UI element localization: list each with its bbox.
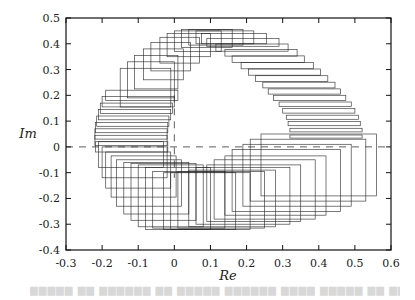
enclosure-rect bbox=[207, 165, 301, 222]
y-tick-label: -0.1 bbox=[39, 167, 60, 180]
enclosure-rect bbox=[256, 76, 328, 82]
y-tick-label: 0.3 bbox=[43, 64, 61, 77]
y-tick-label: 0 bbox=[53, 141, 60, 154]
y-tick-label: -0.4 bbox=[39, 244, 60, 257]
enclosure-rect bbox=[120, 68, 171, 107]
x-tick-label: 0.1 bbox=[202, 257, 220, 270]
y-tick-label: 0.5 bbox=[43, 12, 61, 25]
enclosure-rect bbox=[268, 89, 340, 94]
y-tick-label: 0.2 bbox=[43, 89, 61, 102]
enclosure-rect bbox=[135, 55, 178, 89]
enclosure-rect bbox=[290, 135, 362, 138]
zero-reference-lines bbox=[66, 95, 391, 177]
x-axis-label: Re bbox=[218, 268, 237, 283]
x-tick-label: 0.3 bbox=[274, 257, 292, 270]
enclosure-rect bbox=[279, 102, 351, 107]
enclosure-rect bbox=[97, 116, 169, 126]
enclosure-rect bbox=[100, 103, 172, 113]
enclosure-rect bbox=[95, 135, 167, 145]
enclosure-rect bbox=[241, 63, 313, 69]
enclosure-rect bbox=[225, 49, 297, 56]
rectangle-enclosures bbox=[95, 30, 377, 230]
x-tick-label: 0.6 bbox=[382, 257, 400, 270]
enclosure-rect bbox=[248, 69, 320, 75]
y-tick-label: -0.2 bbox=[39, 192, 60, 205]
figure-caption-fragment: ▆▆▆▆▆ ▆▆ ▆▆▆▆▆▆ ▆▆ ▆▆▆▆▆ ▆▆▆▆▆▆ ▆▆▆▆ ▆▆▆… bbox=[30, 284, 400, 296]
enclosure-rect bbox=[106, 90, 178, 100]
x-tick-label: 0.2 bbox=[238, 257, 256, 270]
enclosure-rect bbox=[99, 110, 171, 120]
enclosure-rect bbox=[286, 115, 358, 119]
enclosure-rect bbox=[243, 144, 351, 206]
enclosure-rect bbox=[144, 49, 184, 80]
enclosure-rect bbox=[232, 150, 340, 212]
enclosure-rect bbox=[288, 122, 360, 126]
enclosure-rect bbox=[232, 56, 304, 63]
enclosure-rect bbox=[95, 129, 167, 139]
enclosure-rect bbox=[274, 95, 346, 100]
y-tick-label: 0.4 bbox=[43, 38, 61, 51]
y-axis-label: Im bbox=[18, 126, 36, 141]
enclosure-rect bbox=[196, 31, 254, 44]
y-axis-ticks: -0.4-0.3-0.2-0.100.10.20.30.40.5 bbox=[39, 12, 391, 257]
x-tick-label: -0.3 bbox=[55, 257, 76, 270]
x-tick-label: 0.4 bbox=[310, 257, 328, 270]
x-tick-label: -0.2 bbox=[92, 257, 113, 270]
chart: -0.3-0.2-0.100.10.20.30.40.50.6 -0.4-0.3… bbox=[0, 0, 415, 300]
enclosure-rect bbox=[178, 171, 265, 228]
y-tick-label: 0.1 bbox=[43, 115, 61, 128]
enclosure-rect bbox=[263, 82, 335, 88]
enclosure-rect bbox=[290, 128, 362, 132]
enclosure-rect bbox=[160, 37, 200, 63]
enclosure-rect bbox=[96, 122, 168, 132]
x-tick-label: -0.1 bbox=[128, 257, 149, 270]
x-tick-label: 0.5 bbox=[346, 257, 364, 270]
enclosure-rect bbox=[117, 160, 182, 206]
enclosure-rect bbox=[283, 109, 355, 114]
x-tick-label: 0 bbox=[171, 257, 178, 270]
y-tick-label: -0.3 bbox=[39, 218, 60, 231]
